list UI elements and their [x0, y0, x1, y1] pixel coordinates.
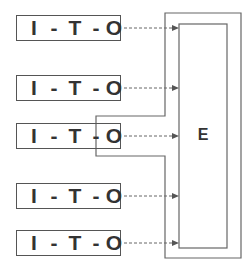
ito-node-4: I - T - O [16, 183, 121, 209]
separator: - [51, 231, 58, 255]
arrowhead-2 [172, 85, 179, 91]
arrowhead-5 [172, 240, 179, 246]
output-label: O [106, 231, 122, 255]
output-label: O [106, 16, 122, 40]
ito-node-2: I - T - O [16, 75, 121, 101]
output-label: O [106, 124, 122, 148]
ito-node-3: I - T - O [16, 123, 121, 149]
arrowhead-4 [172, 193, 179, 199]
separator: - [51, 124, 58, 148]
separator: - [51, 76, 58, 100]
input-label: I [31, 184, 37, 208]
separator: - [93, 184, 100, 208]
input-label: I [31, 124, 37, 148]
separator: - [51, 184, 58, 208]
separator: - [51, 16, 58, 40]
transform-label: T [69, 16, 82, 40]
e-label: E [198, 126, 209, 144]
separator: - [93, 231, 100, 255]
transform-label: T [69, 76, 82, 100]
transform-label: T [69, 184, 82, 208]
input-label: I [31, 16, 37, 40]
input-label: I [31, 231, 37, 255]
arrowhead-1 [172, 25, 179, 31]
input-label: I [31, 76, 37, 100]
separator: - [93, 124, 100, 148]
transform-label: T [69, 231, 82, 255]
transform-label: T [69, 124, 82, 148]
separator: - [93, 16, 100, 40]
ito-node-1: I - T - O [16, 15, 121, 41]
separator: - [93, 76, 100, 100]
output-label: O [106, 184, 122, 208]
ito-node-5: I - T - O [16, 230, 121, 256]
arrowhead-3 [172, 133, 179, 139]
output-label: O [106, 76, 122, 100]
